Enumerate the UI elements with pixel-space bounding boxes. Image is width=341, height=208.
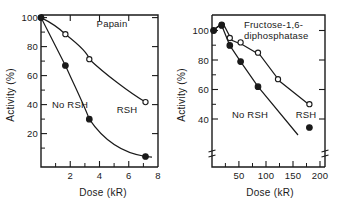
papain-y-ticks-right [152, 18, 158, 134]
data-point [275, 77, 280, 82]
data-point [211, 28, 217, 34]
y-ticklabel: 80 [198, 55, 209, 66]
data-point [307, 125, 313, 131]
data-point [238, 40, 243, 45]
x-ticklabel: 4 [97, 170, 102, 181]
data-point [238, 59, 244, 65]
fdpase-x-ticklabels: 50 100 150 200 [233, 170, 328, 181]
chart-panel-fdpase: 100 80 60 40 50 100 150 200 Dose (kR) Ac… [170, 0, 340, 208]
data-point [38, 15, 44, 21]
plot-title-line2: diphosphatase [244, 30, 308, 41]
data-point [87, 116, 93, 122]
figure-root: 100 80 60 40 20 2 4 6 8 Dose (kR) Activi… [0, 0, 341, 208]
series-label-norsh: No RSH [52, 99, 88, 110]
data-point [227, 43, 233, 49]
y-axis-title: Activity (%) [5, 68, 16, 122]
y-ticklabel: 100 [22, 12, 38, 23]
y-ticklabel: 60 [27, 70, 38, 81]
y-ticklabel: 40 [27, 99, 38, 110]
x-ticklabel: 2 [68, 170, 73, 181]
chart-panel-papain: 100 80 60 40 20 2 4 6 8 Dose (kR) Activi… [0, 0, 170, 208]
data-point [307, 102, 312, 107]
x-axis-title: Dose (kR) [79, 187, 127, 198]
papain-x-ticklabels: 2 4 6 8 [68, 170, 161, 181]
x-axis-title: Dose (kR) [246, 187, 294, 198]
papain-y-ticklabels: 100 80 60 40 20 [22, 12, 38, 139]
data-point [63, 32, 68, 37]
series-label-norsh: No RSH [232, 109, 268, 120]
y-axis-title: Activity (%) [176, 68, 187, 122]
y-ticklabel: 100 [193, 25, 209, 36]
x-ticklabel: 100 [258, 170, 274, 181]
x-ticklabel: 200 [312, 170, 328, 181]
plot-title: Papain [97, 18, 128, 29]
series-label-rsh: RSH [296, 109, 317, 120]
y-ticklabel: 20 [27, 128, 38, 139]
fdpase-y-ticks-right [319, 31, 325, 120]
papain-y-ticks-major [41, 18, 47, 134]
papain-series-rsh [38, 15, 148, 105]
data-point [63, 63, 69, 69]
papain-series-norsh [38, 15, 152, 160]
y-ticklabel: 40 [198, 114, 209, 125]
data-point [143, 154, 149, 160]
y-ticklabel: 60 [198, 84, 209, 95]
x-ticklabel: 6 [126, 170, 131, 181]
papain-axes [41, 15, 158, 167]
data-point [219, 23, 225, 29]
fdpase-svg: 100 80 60 40 50 100 150 200 Dose (kR) Ac… [170, 0, 340, 208]
x-ticklabel: 150 [285, 170, 301, 181]
data-point [143, 100, 148, 105]
data-point [255, 50, 260, 55]
papain-svg: 100 80 60 40 20 2 4 6 8 Dose (kR) Activi… [0, 0, 170, 208]
x-ticklabel: 50 [233, 170, 244, 181]
plot-title-line1: Fructose-1,6- [244, 19, 303, 30]
series-label-rsh: RSH [117, 104, 138, 115]
x-ticklabel: 8 [155, 170, 160, 181]
y-ticklabel: 80 [27, 41, 38, 52]
data-point [255, 84, 261, 90]
papain-x-ticks-major [70, 15, 129, 167]
fdpase-y-ticklabels: 100 80 60 40 [193, 25, 209, 125]
data-point [87, 57, 92, 62]
